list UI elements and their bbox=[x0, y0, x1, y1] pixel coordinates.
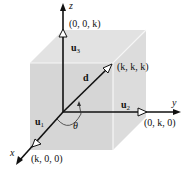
u3-subscript: 3 bbox=[77, 47, 81, 55]
z-axis-arrowhead bbox=[60, 3, 66, 11]
diag-point-label: (k, k, k) bbox=[117, 62, 149, 72]
u2-label: u2 bbox=[121, 100, 130, 112]
y-axis-arrowhead bbox=[173, 109, 181, 115]
z-point-label: (0, 0, k) bbox=[69, 19, 101, 29]
x-axis-label: x bbox=[10, 148, 14, 158]
z-axis-label: z bbox=[69, 1, 73, 11]
x-point-label: (k, 0, 0) bbox=[31, 154, 63, 164]
d-label: d bbox=[83, 73, 89, 83]
u1-label: u1 bbox=[35, 117, 44, 129]
u1-subscript: 1 bbox=[41, 121, 45, 129]
cube-diagram: z (0, 0, k) u3 d (k, k, k) u2 y (0, k, 0… bbox=[0, 0, 187, 173]
theta-label: θ bbox=[73, 121, 78, 131]
y-point-label: (0, k, 0) bbox=[144, 118, 176, 128]
u2-subscript: 2 bbox=[127, 104, 131, 112]
u3-label: u3 bbox=[71, 43, 80, 55]
y-axis-label: y bbox=[172, 98, 176, 108]
